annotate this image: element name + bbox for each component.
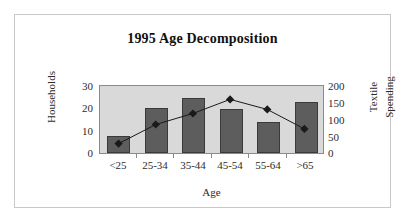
left-axis-title: Households xyxy=(45,57,57,137)
textile-spending-line-series xyxy=(100,86,323,153)
right-tick-label-50: 50 xyxy=(328,132,358,143)
x-tick-mark-5 xyxy=(286,154,287,158)
x-label-25-34: 25-34 xyxy=(136,159,174,171)
left-tick-label-30: 30 xyxy=(67,81,93,92)
right-tick-label-0: 0 xyxy=(328,148,358,159)
x-tick-mark-1 xyxy=(136,154,137,158)
x-label-35-44: 35-44 xyxy=(174,159,212,171)
line-marker-0 xyxy=(114,140,122,148)
plot-area xyxy=(99,85,324,154)
left-tick-label-10: 10 xyxy=(67,126,93,137)
x-tick-mark-3 xyxy=(211,154,212,158)
right-axis-title-line1: Textile xyxy=(367,57,379,137)
figure-frame: 1995 Age Decomposition Households Textil… xyxy=(14,14,391,208)
right-axis-title-line2: Spending xyxy=(383,57,395,137)
line-marker-1 xyxy=(152,120,160,128)
left-tick-label-0: 0 xyxy=(67,148,93,159)
line-marker-4 xyxy=(263,105,271,113)
line-marker-3 xyxy=(226,95,234,103)
line-markers xyxy=(114,95,308,147)
x-label-lt25: <25 xyxy=(99,159,137,171)
x-tick-mark-4 xyxy=(248,154,249,158)
right-tick-label-100: 100 xyxy=(328,115,358,126)
line-marker-2 xyxy=(189,109,197,117)
chart-title: 1995 Age Decomposition xyxy=(15,31,390,47)
right-tick-label-150: 150 xyxy=(328,98,358,109)
x-tick-mark-2 xyxy=(173,154,174,158)
left-tick-label-20: 20 xyxy=(67,103,93,114)
x-label-55-64: 55-64 xyxy=(249,159,287,171)
x-label-gt65: >65 xyxy=(286,159,324,171)
line-marker-5 xyxy=(300,125,308,133)
right-tick-label-200: 200 xyxy=(328,81,358,92)
x-label-45-54: 45-54 xyxy=(211,159,249,171)
x-axis-title: Age xyxy=(99,186,324,198)
